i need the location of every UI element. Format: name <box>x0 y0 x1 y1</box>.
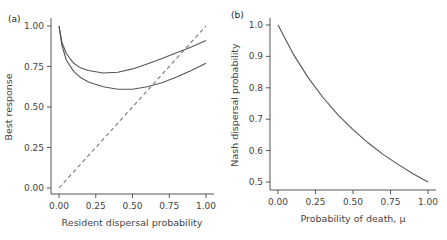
x-tick-label: 0.75 <box>159 201 179 211</box>
x-tick-label: 0.00 <box>49 201 69 211</box>
b-y-label: Nash dispersal probability <box>229 43 240 167</box>
y-tick-label: 0.9 <box>249 51 264 61</box>
a-y-ticks: 0.000.250.500.751.00 <box>24 21 51 193</box>
x-tick-label: 1.00 <box>418 197 438 207</box>
a-series <box>59 26 206 188</box>
x-tick-label: 0.50 <box>122 201 142 211</box>
series-line <box>59 26 206 73</box>
panel-b: (b) 0.50.60.70.80.91.0 0.000.250.500.751… <box>229 10 438 224</box>
x-tick-label: 1.00 <box>196 201 216 211</box>
y-tick-label: 0.7 <box>249 114 263 124</box>
y-tick-label: 0.5 <box>249 177 263 187</box>
b-x-label: Probability of death, μ <box>301 213 406 224</box>
b-series <box>278 25 428 182</box>
b-x-ticks: 0.000.250.500.751.00 <box>268 190 438 207</box>
x-tick-label: 0.75 <box>380 197 400 207</box>
a-x-ticks: 0.000.250.500.751.00 <box>49 194 216 211</box>
y-tick-label: 1.0 <box>249 20 264 30</box>
y-tick-label: 0.6 <box>249 146 264 156</box>
x-tick-label: 0.25 <box>86 201 106 211</box>
a-y-label: Best response <box>3 73 14 140</box>
y-tick-label: 0.00 <box>24 183 44 193</box>
a-x-label: Resident dispersal probability <box>62 217 203 228</box>
series-line <box>59 26 206 188</box>
panel-b-label: (b) <box>231 10 244 20</box>
panel-a-label: (a) <box>8 14 21 24</box>
x-tick-label: 0.50 <box>343 197 363 207</box>
figure: (a) 0.000.250.500.751.00 0.000.250.500.7… <box>0 0 447 240</box>
y-tick-label: 0.75 <box>24 62 44 72</box>
x-tick-label: 0.00 <box>268 197 288 207</box>
y-tick-label: 0.8 <box>249 83 264 93</box>
series-line <box>278 25 428 182</box>
y-tick-label: 1.00 <box>24 21 44 31</box>
x-tick-label: 0.25 <box>305 197 325 207</box>
series-line <box>59 26 206 89</box>
b-y-ticks: 0.50.60.70.80.91.0 <box>249 20 270 187</box>
y-tick-label: 0.50 <box>24 102 44 112</box>
y-tick-label: 0.25 <box>24 143 44 153</box>
panel-a: (a) 0.000.250.500.751.00 0.000.250.500.7… <box>3 14 216 228</box>
